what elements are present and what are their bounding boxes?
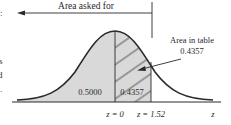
edge-fragment-dot: . <box>0 84 2 94</box>
z0-label: z = 0 <box>105 109 124 119</box>
edge-fragment-colon: : <box>0 8 3 18</box>
edge-fragment-d: d <box>0 70 3 80</box>
normal-curve-diagram: Area asked for Area in table 0.4357 0.50… <box>0 0 231 125</box>
arrowhead-left-icon <box>17 11 25 16</box>
area-asked-label: Area asked for <box>58 1 115 11</box>
area-in-table-label: Area in table <box>170 35 214 45</box>
z152-label: z = 1.52 <box>136 109 166 119</box>
area-in-table-value: 0.4357 <box>180 46 203 56</box>
right-area-value: 0.4357 <box>120 87 143 97</box>
axis-z-label: z <box>210 109 215 119</box>
edge-fragment-s: s <box>0 56 3 66</box>
left-area-value: 0.5000 <box>78 87 101 97</box>
